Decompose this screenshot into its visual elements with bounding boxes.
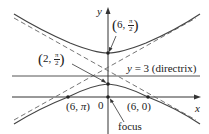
pointer-lower-arrow-icon bbox=[101, 79, 107, 84]
pointer-upper-arrow-icon bbox=[109, 47, 113, 52]
point-right bbox=[146, 95, 150, 99]
label-left-point: (6, π) bbox=[66, 101, 90, 112]
x-axis-arrow-icon bbox=[194, 95, 201, 100]
pointer-focus bbox=[111, 100, 124, 122]
point-focus bbox=[106, 95, 110, 99]
y-axis-arrow-icon bbox=[106, 7, 111, 14]
x-axis-label: x bbox=[195, 103, 200, 114]
label-focus: focus bbox=[118, 121, 142, 132]
label-directrix: y = 3 (directrix) bbox=[127, 63, 196, 74]
label-right-point: (6, 0) bbox=[127, 101, 151, 112]
hyperbola-upper-branch bbox=[14, 14, 200, 53]
label-upper-vertex: (6, π2) bbox=[112, 18, 139, 33]
point-left bbox=[66, 95, 70, 99]
point-lower-vertex bbox=[106, 82, 110, 86]
y-axis-label: y bbox=[97, 6, 102, 17]
pointer-focus-arrow-icon bbox=[110, 99, 114, 104]
label-lower-vertex: (2, π2) bbox=[38, 52, 65, 67]
origin-label: 0 bbox=[98, 100, 104, 111]
